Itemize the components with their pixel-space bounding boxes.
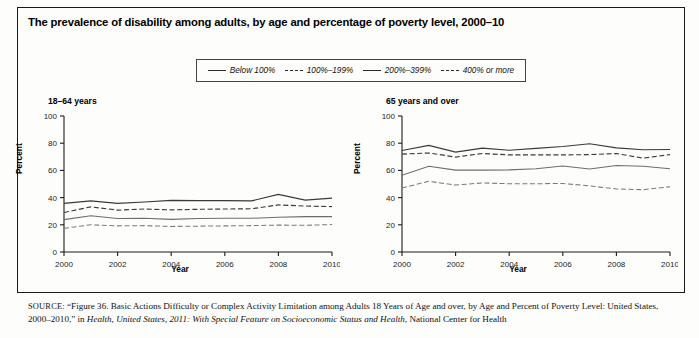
figure-page: The prevalence of disability among adult… [0,0,699,338]
line-solid-icon [363,70,381,71]
legend-label: 100%–199% [307,66,353,75]
chart-legend: Below 100% 100%–199% 200%–399% 400% or m… [196,59,526,82]
svg-text:0: 0 [53,248,58,257]
legend-item-100-199[interactable]: 100%–199% [285,66,353,75]
legend-item-400-or-more[interactable]: 400% or more [441,66,514,75]
plot-area: 020406080100200020022004200620082010 [20,110,340,270]
chart-panel-18-64: 18–64 years Percent 02040608010020002002… [20,96,340,286]
line-solid-icon [208,70,226,71]
legend-label: 200%–399% [385,66,431,75]
chart-subtitle: 65 years and over [386,96,459,106]
svg-text:60: 60 [48,166,57,175]
source-line1: “Figure 36. Basic Actions Difficulty or … [67,301,579,311]
line-dashed-icon [441,70,459,71]
line-chart-svg: 020406080100200020022004200620082010 [20,110,340,270]
x-axis-label: Year [20,264,340,274]
svg-text:80: 80 [48,139,57,148]
svg-text:100: 100 [382,112,396,121]
svg-text:40: 40 [48,194,57,203]
legend-item-200-399[interactable]: 200%–399% [363,66,431,75]
svg-text:0: 0 [391,248,396,257]
source-publication-title: Health, United States, 2011: With Specia… [87,314,405,324]
line-chart-svg: 020406080100200020022004200620082010 [358,110,678,270]
svg-text:80: 80 [386,139,395,148]
svg-text:20: 20 [48,221,57,230]
legend-label: 400% or more [463,66,514,75]
page-title: The prevalence of disability among adult… [28,16,504,28]
source-prefix: SOURCE: [28,302,65,311]
legend-item-below-100[interactable]: Below 100% [208,66,276,75]
svg-text:100: 100 [44,112,58,121]
legend-label: Below 100% [230,66,276,75]
svg-text:20: 20 [386,221,395,230]
svg-text:40: 40 [386,194,395,203]
source-note: SOURCE: “Figure 36. Basic Actions Diffic… [28,300,676,326]
source-line2-post: , National Center for Health [405,314,507,324]
plot-area: 020406080100200020022004200620082010 [358,110,678,270]
chart-subtitle: 18–64 years [48,96,97,106]
chart-panel-65-over: 65 years and over Percent 02040608010020… [358,96,678,286]
line-dashed-icon [285,70,303,71]
svg-text:60: 60 [386,166,395,175]
x-axis-label: Year [358,264,678,274]
